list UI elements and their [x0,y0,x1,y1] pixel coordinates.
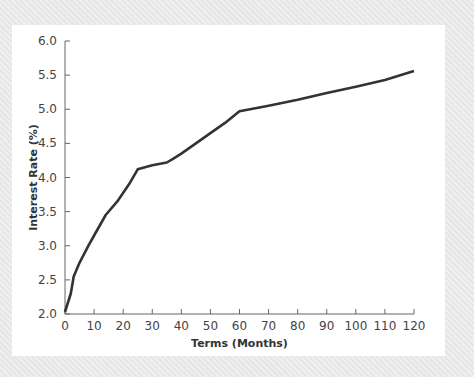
x-tick-label: 90 [319,319,334,333]
x-tick-label: 70 [261,319,276,333]
x-tick-label: 0 [61,319,69,333]
data-line [65,71,414,312]
x-tick-label: 50 [203,319,218,333]
y-tick-label: 4.0 [38,171,57,185]
y-tick-label: 3.5 [38,205,57,219]
x-tick-label: 120 [403,319,426,333]
x-tick-label: 20 [116,319,131,333]
y-tick-label: 3.0 [38,239,57,253]
x-tick-label: 10 [86,319,101,333]
x-tick-label: 100 [344,319,367,333]
axes [65,41,414,314]
y-tick-label: 5.5 [38,68,57,82]
x-tick-label: 30 [145,319,160,333]
y-tick-label: 5.0 [38,102,57,116]
x-tick-label: 40 [174,319,189,333]
y-tick-label: 2.5 [38,273,57,287]
axis-ticks: 01020304050607080901001101202.02.53.03.5… [38,34,426,333]
x-tick-label: 80 [290,319,305,333]
y-axis-title: Interest Rate (%) [27,124,40,231]
y-tick-label: 2.0 [38,307,57,321]
x-axis-title: Terms (Months) [191,337,288,350]
line-chart: 01020304050607080901001101202.02.53.03.5… [0,0,474,377]
x-tick-label: 110 [373,319,396,333]
y-tick-label: 6.0 [38,34,57,48]
x-tick-label: 60 [232,319,247,333]
y-tick-label: 4.5 [38,136,57,150]
